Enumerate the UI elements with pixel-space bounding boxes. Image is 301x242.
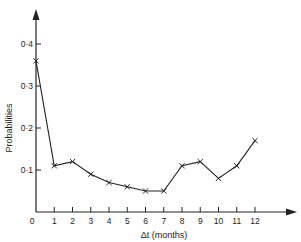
x-tick-label: 6 [143, 216, 148, 226]
data-point-x-marker-icon [252, 138, 257, 143]
y-axis-arrow-icon [33, 9, 40, 20]
y-tick-label: 0·3 [21, 81, 34, 91]
y-tick-label: 0·2 [21, 123, 34, 133]
y-tick-label: 0·1 [21, 165, 34, 175]
x-tick-label: 12 [250, 216, 260, 226]
x-tick-label: 2 [70, 216, 75, 226]
x-tick-label: 5 [125, 216, 130, 226]
x-tick-label: 8 [180, 216, 185, 226]
x-axis-arrow-icon [286, 209, 297, 216]
y-axis-label: Probabilities [4, 103, 14, 153]
data-point-x-marker-icon [234, 163, 239, 168]
x-axis-label: Δt (months) [141, 230, 188, 240]
y-tick-label: 0·4 [21, 39, 34, 49]
x-tick-label: 9 [198, 216, 203, 226]
x-tick-label: 3 [88, 216, 93, 226]
data-point-x-marker-icon [216, 176, 221, 181]
data-point-x-marker-icon [88, 172, 93, 177]
x-tick-label: 1 [52, 216, 57, 226]
x-tick-label: 10 [214, 216, 224, 226]
line-chart: 01234567891011120·10·20·30·4Δt (months)P… [0, 0, 301, 242]
x-tick-label: 11 [232, 216, 241, 226]
x-tick-label: 7 [161, 216, 166, 226]
data-line [36, 61, 255, 191]
x-tick-label: 0 [30, 216, 35, 226]
x-tick-label: 4 [107, 216, 112, 226]
